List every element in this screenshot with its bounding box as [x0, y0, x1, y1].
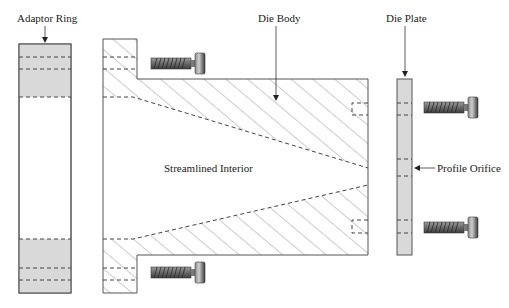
bolt-top-left: [151, 53, 205, 74]
adaptor-ring: [19, 26, 71, 293]
streamlined-interior-label: Streamlined Interior: [164, 162, 253, 174]
bolt-bottom-right: [424, 217, 478, 238]
bolt-top-right: [424, 97, 478, 118]
die-body: [103, 26, 368, 293]
die-plate-label: Die Plate: [386, 12, 427, 24]
die-body-label: Die Body: [258, 12, 300, 24]
bolt-bottom-left: [151, 262, 205, 283]
profile-orifice-label: Profile Orifice: [437, 162, 501, 174]
die-plate: [397, 26, 435, 255]
die-assembly-diagram: Adaptor Ring Die Body Die Plate Streamli…: [0, 0, 509, 308]
adaptor-ring-label: Adaptor Ring: [17, 12, 77, 24]
